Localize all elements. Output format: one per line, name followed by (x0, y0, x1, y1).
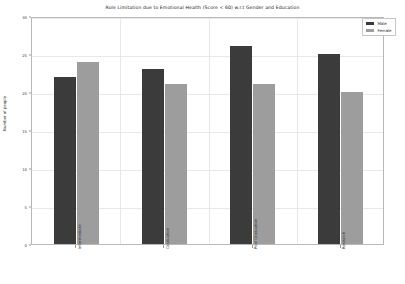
x-tick-label: Research (341, 232, 346, 249)
y-axis: 051015202530 (0, 17, 31, 245)
legend-label: Male (377, 21, 386, 26)
bar-male-research (318, 54, 340, 244)
x-tick-label: Graduation (165, 228, 170, 249)
chart-legend: MaleFemale (362, 18, 396, 36)
y-tick-label: 25 (22, 53, 27, 58)
male-swatch (366, 22, 375, 25)
y-tick-label: 15 (22, 129, 27, 134)
chart-figure: Role Limitation due to Emotional Health … (0, 0, 405, 284)
y-tick-label: 20 (22, 91, 27, 96)
bar-male-post-graduation (230, 46, 252, 244)
bar-male-graduation (142, 69, 164, 244)
bar-female-intermediate (77, 62, 99, 244)
x-tick-label: Intermediate (77, 225, 82, 250)
chart-title: Role Limitation due to Emotional Health … (0, 5, 405, 10)
y-tick-label: 10 (22, 167, 27, 172)
female-swatch (366, 29, 375, 32)
y-tick-label: 0 (25, 243, 27, 248)
legend-item-male: Male (366, 21, 392, 26)
legend-item-female: Female (366, 28, 392, 33)
bar-female-research (341, 92, 363, 244)
bar-female-graduation (165, 84, 187, 244)
legend-label: Female (377, 28, 391, 33)
bar-male-intermediate (54, 77, 76, 244)
x-tick-mark (75, 245, 76, 248)
plot-area (31, 17, 384, 245)
bar-series-container (32, 18, 383, 244)
x-tick-label: Post Graduation (253, 219, 258, 249)
x-axis: IntermediateGraduationPost GraduationRes… (31, 245, 384, 284)
y-tick-label: 5 (25, 205, 27, 210)
y-tick-label: 30 (22, 15, 27, 20)
